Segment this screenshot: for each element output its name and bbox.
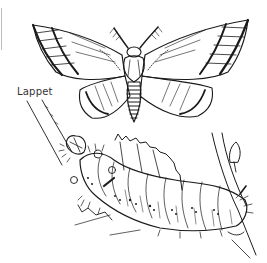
caterpillar-drawing — [59, 136, 253, 238]
illustration-frame: Lappet — [0, 0, 267, 263]
lappet-label: Lappet — [17, 86, 53, 97]
lappet-moth-illustration — [0, 0, 267, 263]
leaf-drawing — [75, 134, 182, 235]
moth-drawing — [33, 20, 248, 122]
label-leader-lines — [27, 100, 72, 165]
